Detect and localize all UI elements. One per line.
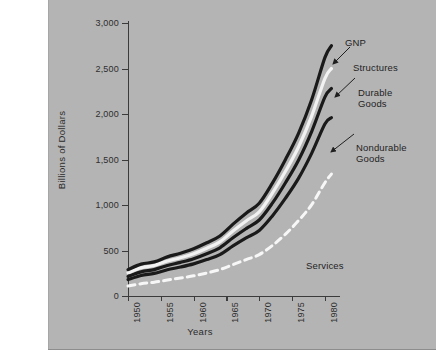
x-tick-label: 1955 [165, 302, 175, 323]
x-axis-title: Years [0, 326, 436, 337]
y-tick [122, 114, 128, 115]
panel-bottom-edge [48, 349, 436, 350]
x-tick-label: 1975 [296, 302, 306, 323]
y-tick [122, 251, 128, 252]
y-axis-title: Billions of Dollars [56, 111, 67, 190]
annotation-gnp: GNP [345, 38, 366, 49]
series-lines [128, 23, 338, 296]
y-tick-label: 0 [114, 291, 119, 301]
x-tick [259, 296, 260, 301]
annotation-nondurable-goods: Nondurable Goods [356, 143, 407, 164]
y-tick-label: 500 [103, 246, 119, 256]
x-tick-label: 1950 [132, 302, 142, 323]
annotation-structures: Structures [353, 63, 398, 74]
x-tick-label: 1980 [329, 302, 339, 323]
y-tick [122, 160, 128, 161]
x-tick [161, 296, 162, 301]
x-axis-line [127, 296, 340, 297]
annotation-durable-goods: Durable Goods [358, 88, 392, 109]
y-tick-label: 1,000 [95, 200, 119, 210]
x-tick-label: 1965 [230, 302, 240, 323]
y-tick-label: 3,000 [95, 18, 119, 28]
x-tick [194, 296, 195, 301]
x-tick [292, 296, 293, 301]
y-tick [122, 205, 128, 206]
plot-area: 05001,0001,5002,0002,5003,000 1950195519… [128, 23, 338, 296]
x-tick [128, 296, 129, 301]
figure-caption: 2.neofn. [0, 4, 12, 46]
y-tick-label: 1,500 [95, 155, 119, 165]
x-tick-label: 1960 [198, 302, 208, 323]
x-tick-label: 1970 [263, 302, 273, 323]
y-tick [122, 69, 128, 70]
y-tick-label: 2,500 [95, 64, 119, 74]
x-tick [226, 296, 227, 301]
y-tick-label: 2,000 [95, 109, 119, 119]
y-tick [122, 23, 128, 24]
annotation-services: Services [306, 260, 344, 271]
panel-left-edge [48, 0, 49, 350]
figure-root: 2.neofn. 05001,0001,5002,0002,5003,000 1… [0, 0, 436, 360]
x-tick [325, 296, 326, 301]
